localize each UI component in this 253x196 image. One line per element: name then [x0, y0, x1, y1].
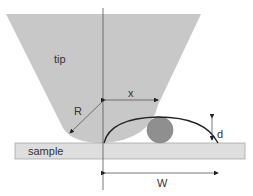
tip-sample-diagram: tip sample R x d W	[0, 0, 253, 196]
w-label: W	[157, 177, 168, 189]
x-label: x	[128, 87, 134, 99]
tip-label: tip	[54, 53, 66, 65]
sample-label: sample	[28, 145, 63, 157]
radius-label: R	[74, 105, 82, 117]
tip-shape	[6, 14, 201, 143]
particle	[147, 117, 173, 143]
d-label: d	[217, 128, 223, 140]
